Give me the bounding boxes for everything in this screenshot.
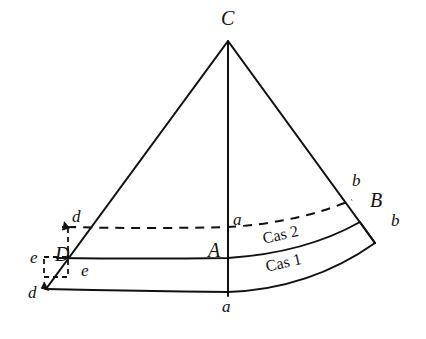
diagram-svg: [0, 0, 426, 339]
label-upper-center-a: a: [233, 211, 242, 228]
label-upper-right-b: b: [352, 172, 361, 189]
arc-dashed-hidden: [67, 200, 352, 228]
label-lower-right-b: b: [391, 212, 400, 229]
tick-upper-d: [62, 222, 69, 230]
label-lower-left-e: e: [81, 262, 89, 279]
label-lower-center-a: a: [222, 298, 231, 315]
figure-canvas: C B b b A a a D d d e e Cas 2 Cas 1: [0, 0, 426, 339]
label-upper-left-d: d: [72, 208, 81, 225]
label-lower-left-d: d: [28, 284, 37, 301]
generatrix-right-line: [228, 41, 375, 243]
label-vertex-B: B: [370, 190, 382, 210]
label-upper-left-e: e: [30, 249, 38, 266]
edge-right-B-to-b: [360, 222, 375, 243]
label-vertex-D: D: [55, 244, 69, 264]
label-apex-C: C: [221, 8, 234, 28]
generatrix-left-line: [46, 41, 228, 289]
label-vertex-A: A: [208, 240, 220, 260]
